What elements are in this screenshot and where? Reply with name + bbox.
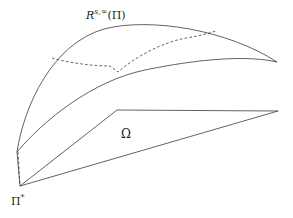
figure-container: Rs,∞(Π) Ω Π* [0, 0, 293, 218]
pi-star-superscript: * [21, 193, 25, 202]
dashed-curves [18, 31, 216, 186]
omega-region [20, 110, 278, 186]
lower-boundary-arc-line [17, 59, 277, 152]
boundary-arcs [17, 25, 277, 186]
reachable-set-argument: (Π) [107, 9, 125, 22]
reachable-set-diagram [0, 0, 293, 218]
intermediate-dashed-curve-line [52, 31, 216, 72]
pi-star-label: Π* [11, 194, 25, 207]
omega-top-edge-line [117, 110, 278, 111]
upper-boundary-arc-line [17, 25, 277, 152]
omega-diagonal-right-line [20, 111, 278, 186]
pi-star-base: Π [11, 195, 21, 208]
omega-label: Ω [121, 128, 131, 140]
omega-diagonal-left-line [20, 110, 117, 186]
reachable-set-label: Rs,∞(Π) [86, 8, 126, 21]
reachable-set-superscript: s,∞ [94, 7, 107, 16]
